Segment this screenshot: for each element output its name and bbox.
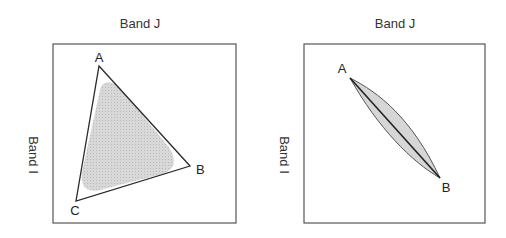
right-y-axis-label: Band I — [277, 136, 292, 174]
left-x-axis-label: Band J — [120, 16, 160, 31]
diagram-canvas: Band J Band I A B C Band J Band I A B — [0, 0, 506, 238]
vertex-label-a: A — [95, 50, 104, 65]
right-panel: Band J Band I A B — [277, 16, 485, 223]
line-label-a: A — [338, 61, 347, 76]
endmember-line — [350, 78, 440, 178]
left-y-axis-label: Band I — [26, 136, 41, 174]
vertex-label-c: C — [70, 203, 79, 218]
left-panel: Band J Band I A B C — [26, 16, 236, 223]
right-x-axis-label: Band J — [375, 16, 415, 31]
vertex-label-b: B — [196, 162, 205, 177]
line-label-b: B — [442, 180, 451, 195]
